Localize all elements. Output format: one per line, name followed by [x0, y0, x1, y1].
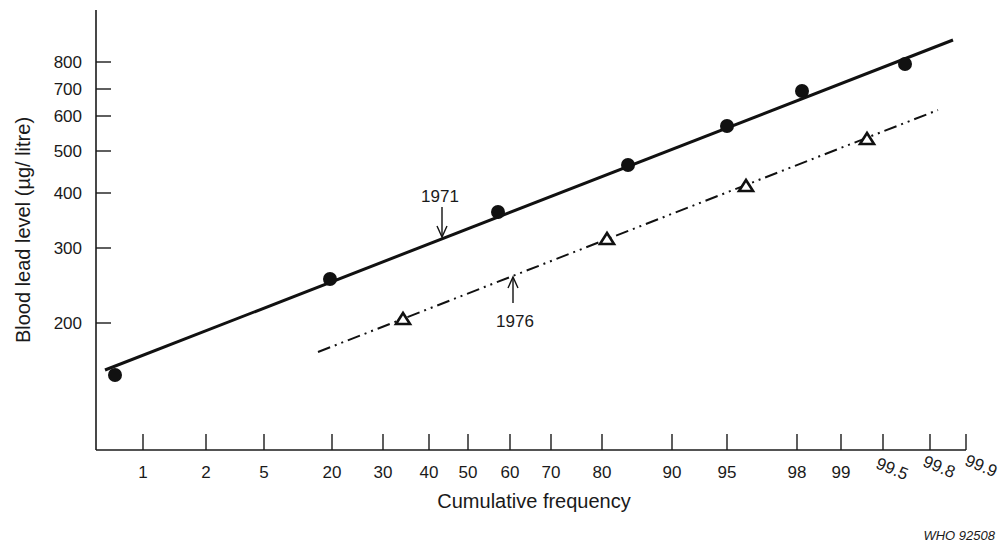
x-tick-label: 70: [542, 463, 561, 482]
figure-credit: WHO 92508: [905, 528, 995, 543]
data-point: [600, 233, 614, 244]
x-tick-label: 98: [788, 463, 807, 482]
annotation-1971: 1971: [421, 187, 459, 237]
x-tick-label: 99: [832, 463, 851, 482]
annotation-1976: 1976: [496, 277, 534, 331]
x-tick-label: 30: [374, 463, 393, 482]
x-tick-label: 80: [593, 463, 612, 482]
series-1976-line: [318, 110, 938, 352]
series-1971-points: [108, 57, 912, 382]
axes: [96, 10, 966, 450]
x-tick-label: 90: [663, 463, 682, 482]
x-tick-label: 99.9: [962, 451, 999, 481]
y-ticks: [96, 62, 111, 323]
y-tick-label: 300: [54, 239, 82, 258]
y-tick-labels: 800 700 600 500 400 300 200: [54, 53, 82, 333]
data-point: [491, 205, 505, 219]
x-tick-label: 60: [501, 463, 520, 482]
data-point: [860, 133, 874, 144]
data-point: [898, 57, 912, 71]
data-point: [396, 313, 410, 324]
data-point: [323, 272, 337, 286]
x-tick-label: 40: [420, 463, 439, 482]
y-tick-label: 400: [54, 184, 82, 203]
annotation-1976-label: 1976: [496, 312, 534, 331]
annotation-1971-label: 1971: [421, 187, 459, 206]
chart-canvas: 800 700 600 500 400 300 200 1 2 5 20 30 …: [0, 0, 999, 548]
y-tick-label: 500: [54, 142, 82, 161]
x-tick-label: 2: [201, 463, 210, 482]
data-point: [621, 158, 635, 172]
x-axis-title: Cumulative frequency: [437, 490, 630, 512]
x-ticks: [143, 434, 966, 450]
x-tick-label: 95: [718, 463, 737, 482]
y-axis-title: Blood lead level (µg/ litre): [12, 117, 34, 343]
x-tick-label: 99.5: [873, 454, 911, 484]
data-point: [108, 368, 122, 382]
y-tick-label: 200: [54, 314, 82, 333]
x-tick-labels: 1 2 5 20 30 40 50 60 70 80 90 95 98 99 9…: [138, 451, 999, 484]
y-tick-label: 700: [54, 80, 82, 99]
x-tick-label: 50: [459, 463, 478, 482]
data-point: [739, 180, 753, 191]
y-tick-label: 800: [54, 53, 82, 72]
x-tick-label: 99.8: [920, 452, 958, 482]
data-point: [795, 84, 809, 98]
x-tick-label: 20: [323, 463, 342, 482]
x-tick-label: 1: [138, 463, 147, 482]
x-tick-label: 5: [259, 463, 268, 482]
y-tick-label: 600: [54, 107, 82, 126]
data-point: [720, 119, 734, 133]
